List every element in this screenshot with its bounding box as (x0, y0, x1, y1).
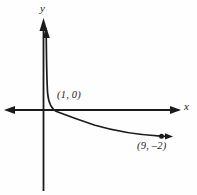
x-axis-left-arrow-icon (4, 106, 15, 114)
graph-figure: y x (1, 0) (9, –2) (0, 0, 197, 195)
x-axis-right-arrow-icon (170, 106, 181, 114)
y-axis-label: y (40, 3, 45, 14)
point-label-1-0: (1, 0) (57, 90, 81, 101)
logarithmic-curve (46, 31, 161, 136)
point-label-9-minus2: (9, –2) (137, 141, 166, 152)
x-axis-label: x (184, 101, 189, 112)
coordinate-plane (0, 0, 197, 195)
curve-end-arrow-icon (165, 133, 173, 139)
